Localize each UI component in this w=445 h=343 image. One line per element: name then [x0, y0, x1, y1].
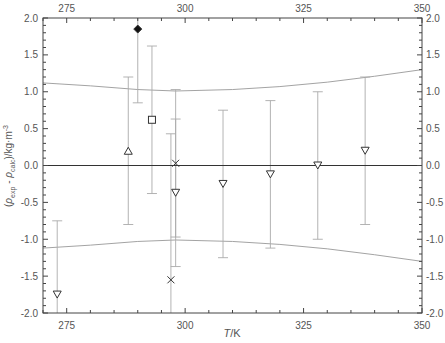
y-tick-label-left: -1.0	[21, 234, 39, 245]
x-tick-label-bottom: 300	[177, 320, 194, 331]
svg-text:(ρexp - ρcalc)/kg·m-3: (ρexp - ρcalc)/kg·m-3	[2, 125, 17, 207]
data-markers	[53, 25, 369, 298]
y-tick-label-left: 0.5	[24, 123, 38, 134]
x-tick-label-top: 275	[58, 3, 75, 14]
y-tick-label-right: 2.0	[426, 13, 440, 24]
envelope-lower	[43, 240, 422, 261]
y-tick-label-right: 0.0	[426, 160, 440, 171]
x-tick-label-bottom: 325	[295, 320, 312, 331]
y-tick-label-left: -0.5	[21, 197, 39, 208]
y-axis-label: (ρexp - ρcalc)/kg·m-3	[2, 125, 17, 207]
diamond-marker	[134, 25, 142, 33]
x-tick-label-bottom: 350	[414, 320, 431, 331]
down-triangle-marker	[219, 180, 227, 187]
y-tick-label-left: -2.0	[21, 308, 39, 319]
up-triangle-marker	[124, 147, 132, 154]
y-tick-label-left: 1.5	[24, 49, 38, 60]
x-tick-label-top: 325	[295, 3, 312, 14]
y-tick-label-left: 1.0	[24, 86, 38, 97]
y-tick-label-left: -1.5	[21, 271, 39, 282]
down-triangle-marker	[53, 291, 61, 298]
x-tick-label-top: 300	[177, 3, 194, 14]
y-tick-label-left: 2.0	[24, 13, 38, 24]
plot-svg: 275275300300325325350350-2.0-2.0-1.5-1.5…	[0, 0, 445, 343]
deviation-plot: 275275300300325325350350-2.0-2.0-1.5-1.5…	[0, 0, 445, 343]
y-tick-label-right: -1.5	[426, 271, 444, 282]
x-tick-label-bottom: 275	[58, 320, 75, 331]
x-axis-label: T/K	[223, 327, 241, 339]
square-marker	[148, 116, 155, 123]
y-tick-label-right: 1.5	[426, 49, 440, 60]
y-tick-label-right: 1.0	[426, 86, 440, 97]
y-tick-label-right: -0.5	[426, 197, 444, 208]
y-tick-label-right: -1.0	[426, 234, 444, 245]
down-triangle-marker	[361, 147, 369, 154]
y-tick-label-right: 0.5	[426, 123, 440, 134]
down-triangle-marker	[266, 171, 274, 178]
y-tick-label-right: -2.0	[426, 308, 444, 319]
down-triangle-marker	[172, 189, 180, 196]
y-tick-label-left: 0.0	[24, 160, 38, 171]
tick-labels: 275275300300325325350350-2.0-2.0-1.5-1.5…	[21, 3, 444, 331]
